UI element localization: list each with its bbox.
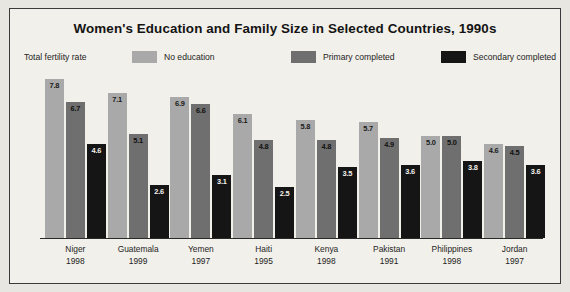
survey-year: 1999 [107,256,170,268]
legend-swatch-primary-completed [291,51,316,63]
country-name: Kenya [315,244,339,254]
x-axis-tick-label: Guatemala1999 [107,244,170,267]
x-axis-line [40,238,543,239]
bar: 5.8 [296,120,315,238]
bar: 3.5 [338,167,357,238]
legend-item-no-education: No education [132,49,215,65]
bar: 4.6 [484,144,503,238]
bar: 7.1 [108,93,127,238]
bar-group: 4.64.53.6 [484,71,545,238]
bar: 3.6 [401,165,420,238]
country-name: Philippines [432,244,473,254]
bar: 7.8 [45,79,64,238]
x-axis-tick-label: Haiti1995 [232,244,295,267]
bar: 4.6 [87,144,106,238]
x-axis-tick-label: Jordan1997 [483,244,546,267]
legend-label-primary-completed: Primary completed [323,52,395,62]
bar-group: 7.15.12.6 [108,71,169,238]
survey-year: 1995 [232,256,295,268]
country-name: Yemen [188,244,214,254]
x-axis-tick-label: Philippines1998 [421,244,484,267]
bar-value-label: 7.1 [108,95,127,104]
bar: 5.7 [359,122,378,238]
bar-value-label: 2.5 [275,189,294,198]
bar: 2.5 [275,187,294,238]
bar: 4.8 [254,140,273,238]
country-name: Pakistan [373,244,405,254]
chart-legend: Total fertility rate No education Primar… [10,49,560,65]
bar: 5.1 [129,134,148,238]
bar-value-label: 3.5 [338,169,357,178]
bar: 4.8 [317,140,336,238]
bar-value-label: 3.6 [526,167,545,176]
survey-year: 1998 [421,256,484,268]
bar-group: 5.84.83.5 [296,71,357,238]
bar-group: 6.14.82.5 [233,71,294,238]
legend-item-primary-completed: Primary completed [291,49,395,65]
bar-value-label: 2.6 [150,187,169,196]
country-name: Niger [65,244,85,254]
bar-value-label: 4.6 [87,146,106,155]
legend-label-secondary-completed: Secondary completed [473,52,556,62]
survey-year: 1997 [170,256,233,268]
bar-value-label: 3.6 [401,167,420,176]
bar-value-label: 4.6 [484,146,503,155]
bar-value-label: 6.7 [66,104,85,113]
bar: 6.6 [191,104,210,238]
legend-item-secondary-completed: Secondary completed [441,49,556,65]
bar-value-label: 4.9 [380,140,399,149]
survey-year: 1998 [44,256,107,268]
bar: 5.0 [442,136,461,238]
bar: 6.7 [66,102,85,238]
bar: 3.6 [526,165,545,238]
country-name: Jordan [502,244,528,254]
plot-area: 7.86.74.67.15.12.66.96.63.16.14.82.55.84… [44,71,546,238]
bar-value-label: 5.0 [442,138,461,147]
bar: 4.9 [380,138,399,238]
bar: 3.1 [212,175,231,238]
bar-group: 5.74.93.6 [359,71,420,238]
bar-value-label: 4.5 [505,148,524,157]
bar-value-label: 3.1 [212,177,231,186]
bar: 6.1 [233,114,252,238]
bar: 2.6 [150,185,169,238]
bar-value-label: 7.8 [45,81,64,90]
bar-value-label: 4.8 [317,142,336,151]
chart-title: Women's Education and Family Size in Sel… [10,21,560,36]
survey-year: 1991 [358,256,421,268]
bar-value-label: 5.8 [296,122,315,131]
x-axis-tick-label: Kenya1998 [295,244,358,267]
bar: 6.9 [170,97,189,238]
country-name: Guatemala [118,244,159,254]
bar-value-label: 5.1 [129,136,148,145]
bar-value-label: 5.7 [359,124,378,133]
bar-group: 5.05.03.8 [421,71,482,238]
bar-value-label: 6.9 [170,99,189,108]
bar-value-label: 4.8 [254,142,273,151]
bar-value-label: 6.6 [191,106,210,115]
legend-caption-label: Total fertility rate [24,52,87,62]
legend-caption: Total fertility rate [24,49,87,65]
x-axis-tick-label: Niger1998 [44,244,107,267]
bar: 3.8 [463,161,482,238]
bar-value-label: 3.8 [463,163,482,172]
legend-swatch-no-education [132,51,157,63]
survey-year: 1998 [295,256,358,268]
country-name: Haiti [255,244,272,254]
chart-panel: Women's Education and Family Size in Sel… [9,8,561,284]
x-axis-tick-label: Yemen1997 [170,244,233,267]
bar: 4.5 [505,146,524,238]
bar: 5.0 [421,136,440,238]
bar-value-label: 5.0 [421,138,440,147]
x-axis-labels: Niger1998Guatemala1999Yemen1997Haiti1995… [44,244,546,274]
legend-swatch-secondary-completed [441,51,466,63]
x-axis-tick-label: Pakistan1991 [358,244,421,267]
survey-year: 1997 [483,256,546,268]
bar-value-label: 6.1 [233,116,252,125]
bar-group: 7.86.74.6 [45,71,106,238]
bar-group: 6.96.63.1 [170,71,231,238]
legend-label-no-education: No education [164,52,215,62]
